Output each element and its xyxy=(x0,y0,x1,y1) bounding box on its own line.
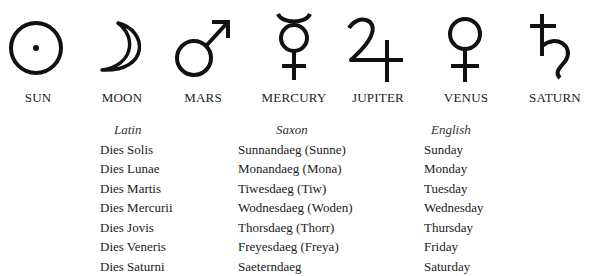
english-row: Saturday xyxy=(424,257,484,276)
english-column: English Sunday Monday Tuesday Wednesday … xyxy=(424,120,484,276)
latin-row: Dies Solis xyxy=(100,140,173,160)
saxon-row: Freyesdaeg (Freya) xyxy=(238,237,353,257)
planet-label-mars: MARS xyxy=(184,90,222,106)
planet-label-jupiter: JUPITER xyxy=(352,90,404,106)
english-row: Wednesday xyxy=(424,198,484,218)
saxon-row: Monandaeg (Mona) xyxy=(238,159,353,179)
english-row: Monday xyxy=(424,159,484,179)
planet-label-venus: VENUS xyxy=(444,90,488,106)
planet-label-saturn: SATURN xyxy=(529,90,581,106)
english-header: English xyxy=(424,120,484,140)
saxon-row: Wodnesdaeg (Woden) xyxy=(238,198,353,218)
latin-column: Latin Dies Solis Dies Lunae Dies Martis … xyxy=(100,120,173,276)
planet-label-mercury: MERCURY xyxy=(262,90,327,106)
moon-symbol-icon xyxy=(88,10,152,82)
venus-symbol-icon xyxy=(433,10,497,82)
saxon-row: Sunnandaeg (Sunne) xyxy=(238,140,353,160)
latin-row: Dies Jovis xyxy=(100,218,173,238)
latin-row: Dies Lunae xyxy=(100,159,173,179)
mars-symbol-icon xyxy=(170,10,234,82)
saxon-row: Saeterndaeg xyxy=(238,257,353,276)
english-row: Sunday xyxy=(424,140,484,160)
sun-symbol-icon xyxy=(4,10,68,82)
mercury-symbol-icon xyxy=(262,10,326,82)
saxon-header: Saxon xyxy=(238,120,353,140)
english-row: Thursday xyxy=(424,218,484,238)
latin-row: Dies Veneris xyxy=(100,237,173,257)
planet-label-sun: SUN xyxy=(25,90,52,106)
saxon-row: Tiwesdaeg (Tiw) xyxy=(238,179,353,199)
saxon-column: Saxon Sunnandaeg (Sunne) Monandaeg (Mona… xyxy=(238,120,353,276)
jupiter-symbol-icon xyxy=(345,10,409,82)
english-row: Tuesday xyxy=(424,179,484,199)
latin-row: Dies Mercurii xyxy=(100,198,173,218)
planet-label-moon: MOON xyxy=(102,90,143,106)
english-row: Friday xyxy=(424,237,484,257)
saxon-row: Thorsdaeg (Thorr) xyxy=(238,218,353,238)
latin-row: Dies Martis xyxy=(100,179,173,199)
latin-row: Dies Saturni xyxy=(100,257,173,276)
latin-header: Latin xyxy=(100,120,173,140)
saturn-symbol-icon xyxy=(522,10,586,82)
